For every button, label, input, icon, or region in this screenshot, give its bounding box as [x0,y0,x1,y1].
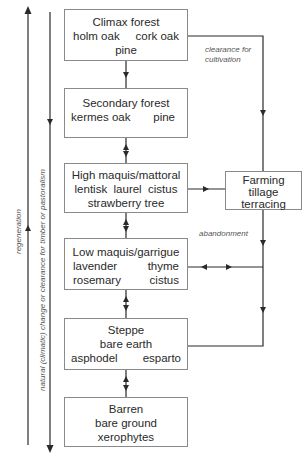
abandonment-label: abandonment [199,229,248,239]
species: lentisk laurel cistus [75,182,178,196]
species: esparto [143,351,181,365]
farming-activity: tillage [226,186,301,198]
stage-high-maquis: High maquis/mattoral lentisk laurel cist… [64,163,188,213]
stage-title: Climax forest [65,15,187,29]
stage-title: Barren [65,402,187,416]
farming-activity: terracing [226,198,301,210]
clearance-label: clearance for cultivation [205,45,251,65]
clearance-label-line: cultivation [205,55,251,65]
stage-title: Secondary forest [65,96,187,110]
species: asphodel [71,351,118,365]
species: holm oak [73,29,120,43]
stage-steppe: Steppe bare earth asphodelesparto [64,318,188,370]
species: bare ground [95,416,157,430]
stage-title: Steppe [65,323,187,337]
species: lavender [73,259,117,273]
species: xerophytes [98,430,154,444]
stage-climax-forest: Climax forest holm oakcork oak pine [64,9,188,61]
farming-box: Farming tillage terracing [225,171,302,210]
species: kermes oak [71,110,130,124]
stage-title: Low maquis/garrigue [65,245,187,259]
stage-title: High maquis/mattoral [65,168,187,182]
regeneration-label: regeneration [14,209,23,254]
species: pine [153,110,175,124]
stage-barren: Barren bare ground xerophytes [64,397,188,447]
farming-title: Farming [226,174,301,186]
clearance-label-line: clearance for [205,45,251,55]
species: strawberry tree [88,196,165,210]
stage-low-maquis: Low maquis/garrigue lavenderthyme rosema… [64,238,188,290]
species: cork oak [136,29,179,43]
species: rosemary [73,273,121,287]
stage-secondary-forest: Secondary forest kermes oakpine [64,88,188,138]
species: bare earth [100,337,152,351]
species: pine [115,43,137,57]
degradation-label: natural (climatic) change or clearance f… [38,169,47,391]
species: thyme [148,259,179,273]
species: cistus [150,273,179,287]
